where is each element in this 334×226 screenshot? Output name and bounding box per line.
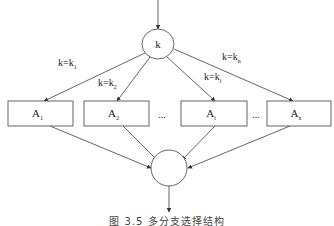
condition-label-a2: k=k2 <box>98 77 117 90</box>
process-box-a2 <box>84 101 149 126</box>
merge-node <box>151 150 187 186</box>
decision-node-label: k <box>155 38 161 50</box>
multi-branch-diagram: kA1k=k1A2k=k2Aik=kiAnk=kn...... <box>0 0 334 226</box>
edge-from-a2 <box>123 126 157 160</box>
edge-from-an <box>188 126 290 168</box>
condition-label-ai: k=ki <box>204 71 222 84</box>
ellipsis-1: ... <box>158 109 166 120</box>
nodes <box>8 29 331 186</box>
condition-label-an: k=kn <box>222 51 241 64</box>
figure-caption: 图 3.5 多分支选择结构 <box>0 216 334 226</box>
edge-from-a1 <box>50 126 151 168</box>
process-box-a1 <box>8 101 73 126</box>
condition-label-a1: k=k1 <box>58 57 77 70</box>
edge-from-ai <box>182 126 215 160</box>
ellipsis-2: ... <box>252 109 260 120</box>
process-box-an <box>267 101 331 126</box>
